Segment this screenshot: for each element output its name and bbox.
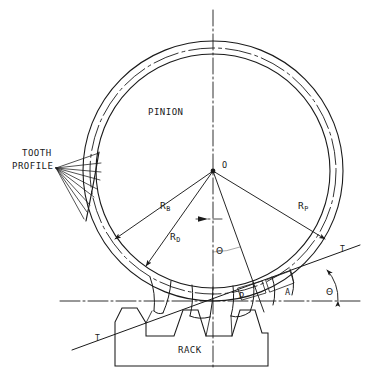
- tangent-label-right: T: [340, 245, 345, 254]
- center-point-label: O: [222, 161, 228, 171]
- tooth-profile-label-line2: PROFILE: [12, 161, 53, 171]
- radius-pitch-subscript: P: [304, 205, 308, 213]
- pinion-label: PINION: [148, 107, 184, 117]
- tooth-profile-fan: [56, 153, 101, 219]
- radius-pitch-label: RP: [273, 190, 308, 225]
- pitch-point-label: P: [239, 292, 245, 302]
- radius-root-label: RD: [145, 221, 180, 256]
- rotation-arrow-icon: [198, 216, 208, 222]
- center-angle-label: Θ: [216, 246, 224, 256]
- radius-base-subscript: B: [166, 205, 170, 213]
- radius-base-label: RB: [135, 190, 170, 225]
- right-angle-label: Θ: [326, 287, 334, 297]
- rack-label: RACK: [178, 345, 202, 355]
- point-a-label: A: [285, 288, 291, 298]
- tangent-label-left: T: [95, 334, 100, 343]
- tooth-profile-label-line1: TOOTH: [22, 148, 52, 158]
- diagram-canvas: [0, 0, 375, 376]
- rack-tooth-flanks: [146, 311, 232, 336]
- radius-root-subscript: D: [176, 236, 180, 244]
- gear-rack-diagram: PINION TOOTH PROFILE O RB RD RP Θ Θ P A …: [0, 0, 375, 376]
- center-point-marker: [211, 169, 216, 174]
